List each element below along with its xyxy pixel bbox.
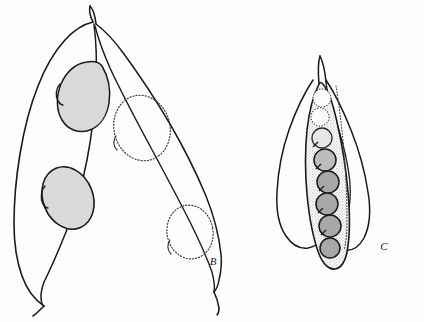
figure-c-label: C [380,240,388,252]
figure-b-label: B [210,255,217,267]
plate-canvas: B [0,0,424,322]
botanical-illustration-plate: B [0,0,424,322]
pod-c-seed-1 [313,89,331,107]
pod-c-seed-8 [320,238,340,258]
pod-c-seed-2 [311,108,329,126]
